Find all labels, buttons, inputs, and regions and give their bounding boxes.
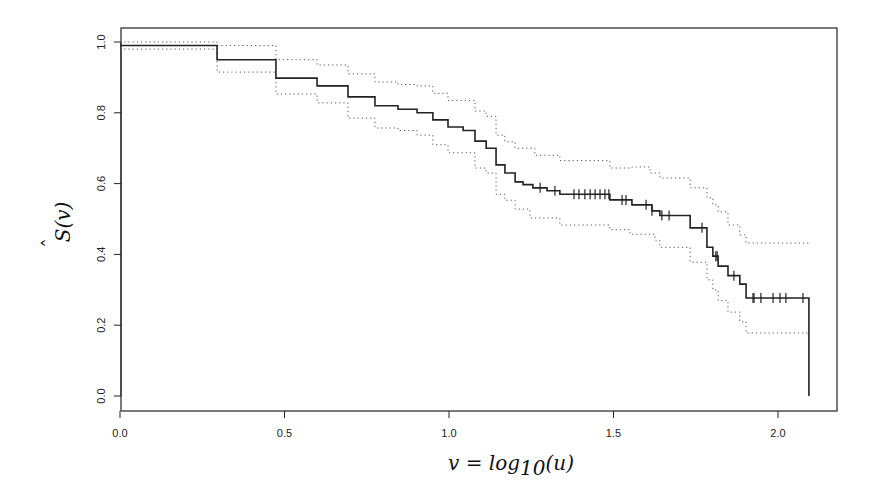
x-tick-label: 2.0 (770, 427, 785, 439)
y-axis-title: S(v) ˆ (39, 202, 75, 248)
x-tick-label: 1.0 (441, 427, 456, 439)
x-axis: 0.00.51.01.52.0 (112, 411, 785, 439)
svg-text:ˆ: ˆ (39, 238, 63, 248)
x-tick-label: 0.5 (277, 427, 292, 439)
plot-frame (121, 28, 837, 411)
y-tick-label: 0.2 (95, 318, 107, 333)
y-axis: 0.00.20.40.60.81.0 (95, 34, 121, 403)
y-tick-label: 1.0 (95, 34, 107, 49)
y-tick-label: 0.6 (95, 176, 107, 191)
x-tick-label: 0.0 (112, 427, 127, 439)
y-tick-label: 0.0 (95, 388, 107, 403)
x-tick-label: 1.5 (606, 427, 621, 439)
svg-text:S(v): S(v) (51, 202, 75, 243)
y-tick-label: 0.8 (95, 105, 107, 120)
y-tick-label: 0.4 (95, 247, 107, 262)
x-axis-title: v = log10(u) (448, 451, 574, 480)
survival-curve (120, 46, 809, 396)
lower-confidence-band (120, 49, 809, 333)
confidence-bands (120, 42, 809, 333)
survival-estimate-line (120, 46, 809, 396)
censor-marks (540, 183, 803, 303)
survival-chart: 0.00.20.40.60.81.0 0.00.51.01.52.0 v = l… (0, 0, 879, 497)
